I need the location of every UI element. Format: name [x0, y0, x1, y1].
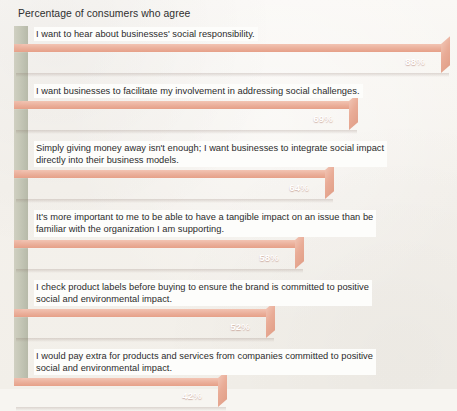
bar-label: It's more important to me to be able to …	[34, 210, 376, 236]
bar-drop-shadow	[16, 199, 333, 203]
bar-label: Simply giving money away isn't enough; I…	[34, 141, 387, 167]
bar-value-label: 69%	[313, 113, 333, 124]
bar-label: I check product labels before buying to …	[34, 280, 372, 306]
bar-label-line: social and environmental impact.	[36, 362, 373, 374]
bar-value-label: 52%	[230, 321, 250, 332]
bar-front-face	[14, 178, 325, 199]
bar: 58%	[14, 240, 295, 273]
bar-label-line: It's more important to me to be able to …	[36, 211, 373, 223]
bar-front-face	[14, 52, 441, 73]
bar: 69%	[14, 101, 349, 134]
bar-drop-shadow	[16, 269, 303, 273]
bar-drop-shadow	[16, 73, 449, 77]
bar-label-line: Simply giving money away isn't enough; I…	[36, 142, 384, 154]
bar-front-face	[14, 109, 349, 130]
bar-end-cap	[266, 301, 275, 338]
bar-top-face	[14, 101, 349, 109]
bar-front-face	[14, 317, 266, 338]
bar-label: I want businesses to facilitate my invol…	[34, 84, 363, 98]
bar: 88%	[14, 44, 441, 77]
bar-top-face	[14, 170, 325, 178]
bar-end-cap	[441, 36, 450, 73]
bar-value-label: 58%	[259, 252, 279, 263]
bar-end-cap	[218, 370, 227, 407]
bar-value-label: 88%	[405, 56, 425, 67]
chart-title: Percentage of consumers who agree	[18, 8, 190, 19]
bar: 52%	[14, 309, 266, 342]
bar-label-line: directly into their business models.	[36, 154, 384, 166]
bar-top-face	[14, 240, 295, 248]
bar-end-cap	[295, 232, 304, 269]
bar-label-line: familiar with the organization I am supp…	[36, 223, 373, 235]
bar-top-face	[14, 378, 218, 386]
bar-value-label: 64%	[289, 182, 309, 193]
bar-end-cap	[349, 93, 358, 130]
bar-label-line: I want businesses to facilitate my invol…	[36, 85, 360, 97]
bar-label-line: I would pay extra for products and servi…	[36, 350, 373, 362]
bar-end-cap	[325, 163, 334, 200]
bar-top-face	[14, 44, 441, 52]
bar-label-line: social and environmental impact.	[36, 293, 369, 305]
bar-label-line: I check product labels before buying to …	[36, 281, 369, 293]
bar-drop-shadow	[16, 130, 357, 134]
bar-front-face	[14, 248, 295, 269]
bar-label-line: I want to hear about businesses' social …	[36, 28, 255, 40]
bar: 42%	[14, 378, 218, 411]
bar-label: I would pay extra for products and servi…	[34, 349, 376, 375]
bar-top-face	[14, 309, 266, 317]
bar-drop-shadow	[16, 338, 274, 342]
bar-drop-shadow	[16, 407, 226, 411]
bar-value-label: 42%	[182, 390, 202, 401]
bar: 64%	[14, 170, 325, 203]
bar-label: I want to hear about businesses' social …	[34, 27, 258, 41]
